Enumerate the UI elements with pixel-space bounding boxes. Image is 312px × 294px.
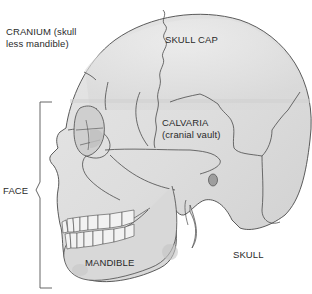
label-cranium: CRANIUM (skull less mandible) <box>6 26 77 50</box>
ear-canal <box>209 174 218 186</box>
label-calvaria-line1: CALVARIA <box>162 117 221 129</box>
skull-diagram: CRANIUM (skull less mandible) SKULL CAP … <box>0 0 312 294</box>
label-calvaria-line2: (cranial vault) <box>162 129 221 141</box>
label-skull-cap: SKULL CAP <box>165 34 218 46</box>
label-calvaria: CALVARIA (cranial vault) <box>162 117 221 141</box>
label-cranium-line1: CRANIUM (skull <box>6 26 77 38</box>
label-skull: SKULL <box>233 249 264 261</box>
label-mandible: MANDIBLE <box>85 257 134 269</box>
label-face: FACE <box>3 185 28 197</box>
face-bracket <box>36 102 52 288</box>
label-cranium-line2: less mandible) <box>6 38 77 50</box>
